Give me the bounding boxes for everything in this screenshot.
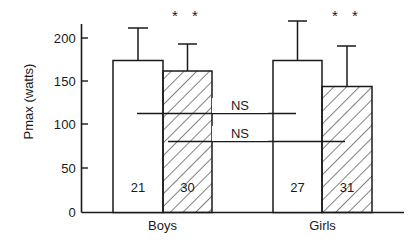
ns-label-lower: NS (212, 126, 268, 141)
bar-n-boys-open: 21 (113, 180, 163, 195)
significance-asterisks-girls: * * (315, 8, 380, 23)
x-group-label-boys: Boys (113, 218, 212, 233)
y-tick-label-0: 0 (28, 205, 76, 220)
y-axis-title: Pmax (watts) (21, 42, 36, 162)
ns-label-upper: NS (212, 98, 268, 113)
bar-n-girls-open: 27 (273, 180, 322, 195)
figure-container: Pmax (watts) 200 150 100 50 0 Boys Girls… (0, 0, 418, 246)
y-axis-ticks (82, 38, 89, 168)
y-tick-label-150: 150 (28, 74, 76, 89)
y-tick-label-100: 100 (28, 117, 76, 132)
significance-asterisks-boys: * * (155, 8, 220, 23)
y-tick-label-200: 200 (28, 31, 76, 46)
y-tick-label-50: 50 (28, 161, 76, 176)
bar-n-girls-hatched: 31 (322, 180, 372, 195)
bar-n-boys-hatched: 30 (163, 180, 212, 195)
x-group-label-girls: Girls (273, 218, 372, 233)
